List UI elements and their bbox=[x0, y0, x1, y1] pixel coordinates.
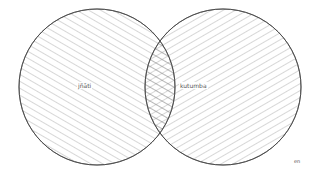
language-tag: en bbox=[293, 158, 301, 165]
set-left-label: jñāti bbox=[77, 82, 92, 89]
venn-diagram bbox=[0, 0, 320, 171]
set-right-label: kutumba bbox=[179, 82, 208, 89]
